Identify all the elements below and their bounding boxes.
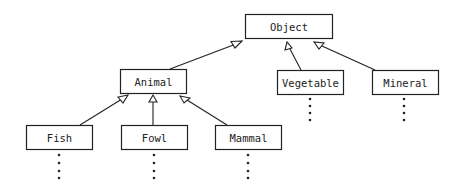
node-fowl: Fowl (122, 126, 188, 150)
continuation-dots-fowl (153, 154, 156, 180)
node-label: Object (270, 21, 308, 33)
inheritance-arrow-icon (285, 42, 292, 50)
edge-mineral-object (322, 46, 375, 70)
inheritance-arrow-icon (180, 96, 190, 103)
edge-vegetable-object (290, 49, 301, 70)
node-fish: Fish (27, 126, 93, 150)
inheritance-arrow-icon (118, 95, 128, 103)
edge-mammal-animal (187, 100, 227, 125)
edge-fish-animal (80, 99, 122, 125)
node-mineral: Mineral (373, 71, 439, 95)
node-label: Fowl (142, 132, 167, 144)
inheritance-arrow-icon (231, 41, 242, 48)
continuation-dots-mineral (403, 98, 406, 122)
node-label: Mineral (383, 77, 427, 89)
continuation-dots-vegetable (309, 98, 312, 122)
node-label: Mammal (230, 132, 268, 144)
node-label: Animal (135, 76, 173, 88)
edge-animal-object (170, 44, 236, 69)
node-animal: Animal (121, 70, 187, 94)
node-label: Fish (47, 132, 72, 144)
class-hierarchy-diagram: Object Animal Vegetable Mineral Fish Fow… (0, 0, 456, 186)
node-label: Vegetable (282, 77, 339, 89)
node-vegetable: Vegetable (278, 71, 344, 95)
continuation-dots-fish (58, 154, 61, 180)
inheritance-arrow-icon (149, 95, 157, 102)
node-mammal: Mammal (216, 126, 282, 150)
inheritance-arrow-icon (314, 42, 324, 49)
continuation-dots-mammal (247, 154, 250, 180)
node-object: Object (246, 15, 333, 39)
